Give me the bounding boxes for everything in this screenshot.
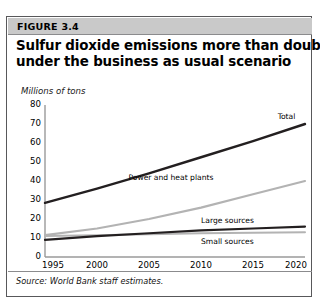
x-tick-label: 2000 <box>77 260 117 270</box>
figure-title-line-2: under the business as usual scenario <box>16 54 306 70</box>
series-label-power-and-heat-plants: Power and heat plants <box>128 173 213 182</box>
line-chart-svg <box>16 99 308 279</box>
source-divider <box>8 271 312 272</box>
y-tick-label: 70 <box>23 118 41 128</box>
figure-title-line-1: Sulfur dioxide emissions more than doubl… <box>16 38 306 54</box>
figure-number-label: FIGURE 3.4 <box>17 21 79 32</box>
y-tick-label: 50 <box>23 156 41 166</box>
y-tick-label: 10 <box>23 232 41 242</box>
x-tick-label: 2005 <box>129 260 169 270</box>
series-label-large-sources: Large sources <box>201 216 254 225</box>
y-tick-label: 40 <box>23 175 41 185</box>
y-tick-label: 60 <box>23 137 41 147</box>
y-axis-unit-label: Millions of tons <box>21 86 85 96</box>
figure-header-band: FIGURE 3.4 <box>8 18 312 35</box>
series-label-small-sources: Small sources <box>201 237 254 246</box>
source-note: Source: World Bank staff estimates. <box>16 276 163 286</box>
y-tick-label: 80 <box>23 99 41 109</box>
figure-container: FIGURE 3.4 Sulfur dioxide emissions more… <box>6 16 312 297</box>
x-tick-label: 2020 <box>276 260 316 270</box>
chart-plot-area: 01020304050607080 1995200020052010201520… <box>16 99 308 279</box>
y-tick-label: 20 <box>23 213 41 223</box>
series-label-total: Total <box>278 112 296 121</box>
x-tick-label: 1995 <box>33 260 73 270</box>
figure-title: Sulfur dioxide emissions more than doubl… <box>16 38 306 69</box>
x-tick-label: 2015 <box>233 260 273 270</box>
y-tick-label: 30 <box>23 194 41 204</box>
x-tick-label: 2010 <box>181 260 221 270</box>
